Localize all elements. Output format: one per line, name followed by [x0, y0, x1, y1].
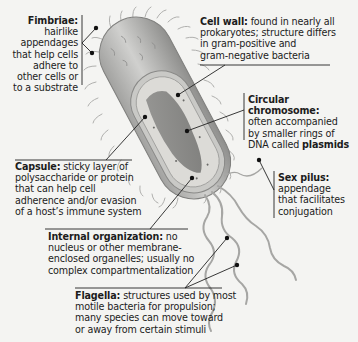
internal-line: nucleus or other membrane- — [48, 242, 182, 253]
label-circular-chromosome: Circular chromosome: often accompanied b… — [248, 94, 358, 150]
fimbriae-line: appendages — [20, 37, 78, 48]
label-fimbriae: Fimbriae: hairlike appendages that help … — [2, 15, 78, 93]
cell-wall-line: in gram-positive and — [200, 38, 296, 49]
label-cell-wall: Cell wall: found in nearly all prokaryot… — [200, 16, 358, 61]
term-cell-wall: Cell wall: — [200, 16, 248, 27]
internal-line: enclosed organelles; usually no — [48, 253, 194, 264]
cell-wall-line: gram-negative bacteria — [200, 50, 310, 61]
term-circular-chromosome: Circular chromosome: — [248, 94, 319, 116]
plasmids-emphasis: plasmids — [302, 139, 349, 150]
capsule-line: sticky layer of — [63, 161, 128, 172]
bacterium-diagram: Fimbriae: hairlike appendages that help … — [0, 0, 358, 342]
fimbriae-line: hairlike — [44, 26, 78, 37]
sex-pilus-line: conjugation — [278, 206, 333, 217]
label-sex-pilus: Sex pilus: appendage that facilitates co… — [278, 172, 358, 217]
label-capsule: Capsule: sticky layer of polysaccharide … — [15, 161, 160, 217]
chromosome-line: DNA called — [248, 139, 299, 150]
sex-pilus-line: that facilitates — [278, 194, 345, 205]
fimbriae-line: adhere to — [33, 60, 78, 71]
cell-wall-line: prokaryotes; structure differs — [200, 27, 336, 38]
internal-line: complex compartmentalization — [48, 265, 193, 276]
fimbriae-line: other cells or — [17, 71, 78, 82]
flagella-line: motile bacteria for propulsion; — [75, 301, 216, 312]
capsule-line: of a host’s immune system — [15, 206, 141, 217]
label-flagella: Flagella: structures used by most motile… — [75, 290, 275, 335]
term-capsule: Capsule: — [15, 161, 60, 172]
capsule-line: adherence and/or evasion — [15, 195, 137, 206]
flagella-line: structures used by most — [123, 290, 236, 301]
term-flagella: Flagella: — [75, 290, 120, 301]
chromosome-line: by smaller rings of — [248, 128, 335, 139]
flagella-line: many species can move toward — [75, 312, 223, 323]
label-internal-organization: Internal organization: no nucleus or oth… — [48, 231, 218, 276]
term-internal-organization: Internal organization: — [48, 231, 163, 242]
cell-wall-line: found in nearly all — [251, 16, 335, 27]
term-sex-pilus: Sex pilus: — [278, 172, 329, 183]
flagella-line: or away from certain stimuli — [75, 324, 206, 335]
term-fimbriae: Fimbriae: — [28, 15, 78, 26]
capsule-line: polysaccharide or protein — [15, 172, 134, 183]
chromosome-line: often accompanied — [248, 116, 338, 127]
fimbriae-line: to a substrate — [13, 82, 78, 93]
internal-line: no — [166, 231, 178, 242]
fimbriae-line: that help cells — [12, 49, 78, 60]
capsule-line: that can help cell — [15, 183, 95, 194]
sex-pilus-line: appendage — [278, 183, 331, 194]
